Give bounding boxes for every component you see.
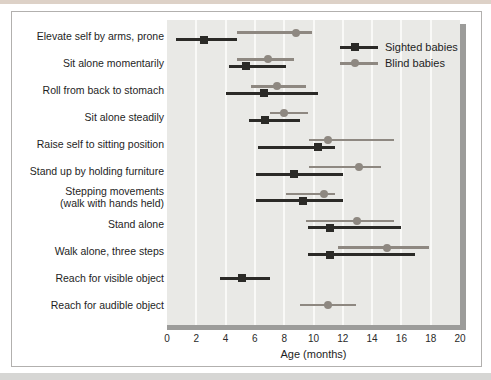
category-label: Sit alone steadily (14, 111, 164, 123)
sighted-range-line (249, 119, 300, 122)
sighted-mean-marker (314, 143, 322, 151)
blind-range-line (309, 139, 394, 142)
x-tick-label: 8 (281, 333, 287, 344)
legend: Sighted babiesBlind babies (340, 39, 458, 71)
blind-range-line (306, 220, 394, 223)
sighted-mean-marker (238, 274, 246, 282)
legend-label: Sighted babies (385, 41, 458, 53)
blind-range-line (237, 31, 312, 34)
sighted-range-line (258, 146, 336, 149)
x-axis-bar (167, 325, 466, 330)
gridline (225, 20, 227, 327)
blind-range-line (309, 166, 381, 169)
category-label: Stand up by holding furniture (14, 165, 164, 177)
category-label: Stepping movements (walk with hands held… (14, 185, 164, 209)
category-label: Raise self to sitting position (14, 138, 164, 150)
sighted-mean-marker (242, 62, 250, 70)
sighted-range-line (308, 253, 415, 256)
legend-label: Blind babies (385, 57, 445, 69)
legend-entry: Sighted babies (340, 39, 458, 55)
x-tick-label: 14 (367, 333, 378, 344)
blind-mean-marker (292, 29, 300, 37)
category-label: Reach for visible object (14, 272, 164, 284)
page-bottom-strip (0, 373, 491, 380)
x-tick-label: 2 (194, 333, 200, 344)
blind-mean-marker (355, 163, 363, 171)
sighted-mean-marker (260, 89, 268, 97)
gridline (195, 20, 197, 327)
blind-mean-marker (320, 190, 328, 198)
x-tick-label: 18 (425, 333, 436, 344)
x-tick-label: 16 (396, 333, 407, 344)
category-label: Sit alone momentarily (14, 57, 164, 69)
sighted-mean-marker (326, 251, 334, 259)
sighted-mean-marker (299, 197, 307, 205)
blind-range-line (286, 193, 336, 196)
category-label: Roll from back to stomach (14, 84, 164, 96)
sighted-range-line (226, 92, 318, 95)
sighted-mean-marker (290, 170, 298, 178)
sighted-mean-marker (326, 224, 334, 232)
category-label: Stand alone (14, 218, 164, 230)
milestones-chart-figure: Elevate self by arms, proneSit alone mom… (11, 11, 482, 367)
plot-right-wall (460, 24, 466, 330)
legend-entry: Blind babies (340, 55, 458, 71)
page-top-strip (0, 0, 491, 4)
sighted-range-line (308, 226, 402, 229)
category-label: Elevate self by arms, prone (14, 30, 164, 42)
x-tick-label: 0 (164, 333, 170, 344)
blind-range-line (270, 112, 308, 115)
x-tick-label: 20 (454, 333, 465, 344)
legend-square-marker-icon (340, 43, 378, 51)
category-label: Walk alone, three steps (14, 245, 164, 257)
x-tick-label: 4 (223, 333, 229, 344)
legend-circle-marker-icon (340, 59, 378, 67)
x-tick-label: 12 (337, 333, 348, 344)
x-tick-label: 6 (252, 333, 258, 344)
x-tick-label: 10 (308, 333, 319, 344)
sighted-range-line (229, 65, 286, 68)
category-label: Reach for audible object (14, 299, 164, 311)
x-axis-title: Age (months) (167, 348, 460, 360)
sighted-mean-marker (261, 116, 269, 124)
sighted-range-line (256, 173, 342, 176)
blind-mean-marker (383, 244, 391, 252)
sighted-mean-marker (200, 36, 208, 44)
